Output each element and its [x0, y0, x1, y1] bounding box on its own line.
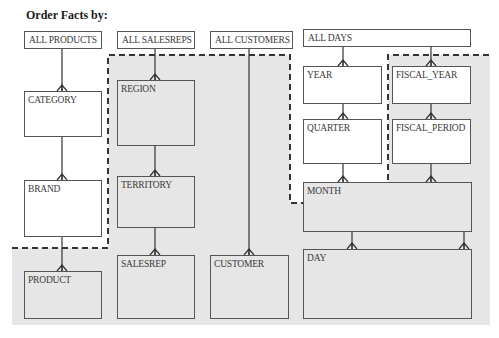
entity-label: PRODUCT: [28, 275, 71, 285]
entity-all-salesreps: ALL SALESREPS: [117, 31, 195, 49]
entity-label: YEAR: [307, 70, 332, 80]
entity-all-customers: ALL CUSTOMERS: [210, 31, 293, 49]
entity-territory: TERRITORY: [117, 176, 195, 228]
entity-label: DAY: [307, 253, 326, 263]
entity-label: REGION: [121, 84, 156, 94]
entity-label: ALL PRODUCTS: [29, 35, 97, 45]
entity-region: REGION: [117, 80, 195, 146]
diagram-title: Order Facts by:: [26, 8, 108, 23]
entity-label: ALL CUSTOMERS: [215, 35, 290, 45]
entity-customer: CUSTOMER: [210, 255, 289, 319]
entity-fiscal-period: FISCAL_PERIOD: [392, 119, 471, 164]
entity-label: CUSTOMER: [214, 259, 264, 269]
entity-label: ALL DAYS: [308, 33, 352, 43]
entity-salesrep: SALESREP: [117, 255, 195, 319]
entity-year: YEAR: [303, 66, 382, 104]
entity-fiscal-year: FISCAL_YEAR: [392, 66, 471, 104]
entity-label: BRAND: [28, 184, 60, 194]
entity-quarter: QUARTER: [303, 119, 382, 164]
entity-month: MONTH: [303, 182, 472, 232]
entity-label: QUARTER: [307, 123, 350, 133]
entity-day: DAY: [303, 249, 472, 319]
entity-all-products: ALL PRODUCTS: [24, 31, 102, 49]
entity-product: PRODUCT: [24, 271, 102, 319]
entity-label: TERRITORY: [121, 180, 172, 190]
entity-label: MONTH: [307, 186, 341, 196]
entity-label: FISCAL_PERIOD: [396, 123, 465, 133]
entity-brand: BRAND: [24, 180, 102, 237]
entity-label: FISCAL_YEAR: [396, 70, 457, 80]
entity-all-days: ALL DAYS: [303, 29, 471, 47]
entity-label: CATEGORY: [28, 95, 77, 105]
entity-category: CATEGORY: [24, 91, 102, 137]
entity-label: ALL SALESREPS: [122, 35, 192, 45]
entity-label: SALESREP: [121, 259, 166, 269]
